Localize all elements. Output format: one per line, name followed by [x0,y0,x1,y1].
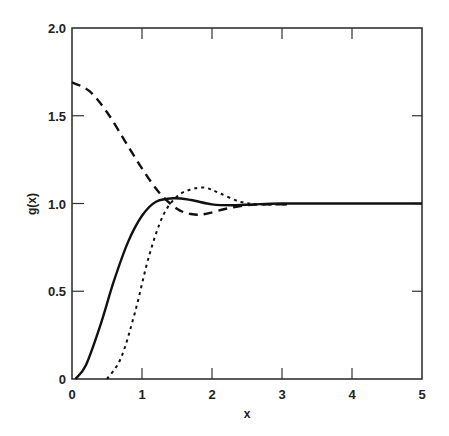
series-dotted-line [107,188,289,379]
axis-ticks: 01234500.51.01.52.0 [48,21,426,402]
line-chart: 01234500.51.01.52.0 x g(x) [0,0,449,436]
x-tick-label: 4 [348,387,356,402]
x-tick-label: 0 [68,387,75,402]
y-tick-label: 0.5 [48,284,66,299]
series-group [72,82,422,379]
series-dashed-line [72,82,289,214]
y-tick-label: 1.5 [48,109,66,124]
series-solid-line [76,198,423,379]
x-tick-label: 2 [208,387,215,402]
x-tick-label: 1 [138,387,145,402]
x-axis-label: x [244,407,251,421]
y-tick-label: 1.0 [48,197,66,212]
y-axis-label: g(x) [25,193,39,215]
y-tick-label: 0 [59,372,66,387]
x-tick-label: 5 [418,387,425,402]
x-tick-label: 3 [278,387,285,402]
y-tick-label: 2.0 [48,21,66,36]
